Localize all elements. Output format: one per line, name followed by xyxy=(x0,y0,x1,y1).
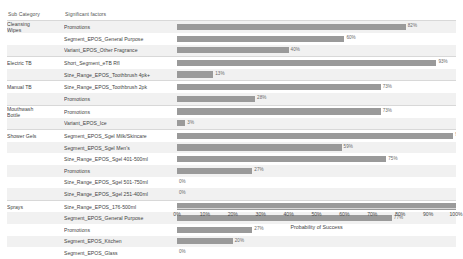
bar-track: 60% xyxy=(177,33,456,45)
cell-significant-factor: Segment_EPOS_Glass xyxy=(64,247,177,259)
table-row: Size_Range_EPOS_Sgel 251-400ml0% xyxy=(7,188,456,200)
cell-bar: 3% xyxy=(177,118,456,130)
bar xyxy=(177,156,386,162)
cell-sub-category: Electric TB xyxy=(7,57,64,69)
bar xyxy=(177,24,406,30)
bar-value-label: 93% xyxy=(438,59,447,64)
cell-bar: 40% xyxy=(177,45,456,57)
bar-value-label: 3% xyxy=(187,120,194,125)
bar xyxy=(177,36,344,42)
bar-track: 99% xyxy=(177,130,456,142)
table-row: Manual TBSize_Range_EPOS_Toothbrush 2pk7… xyxy=(7,81,456,93)
cell-bar: 27% xyxy=(177,165,456,177)
cell-significant-factor: Promotions xyxy=(64,165,177,177)
bar-value-label: 40% xyxy=(291,47,300,52)
bar-value-label: 99% xyxy=(455,132,456,137)
x-axis-line xyxy=(177,208,456,209)
table-row: Promotions28% xyxy=(7,93,456,105)
x-axis-tick-label: 50% xyxy=(311,211,321,217)
cell-significant-factor: Size_Range_EPOS_176-500ml xyxy=(64,200,177,212)
cell-bar: 99% xyxy=(177,130,456,142)
table-row: Segment_EPOS_Glass0% xyxy=(7,247,456,259)
table-row: Size_Range_EPOS_Sgel 501-750ml0% xyxy=(7,177,456,189)
cell-bar: 93% xyxy=(177,57,456,69)
cell-bar: 0% xyxy=(177,177,456,189)
cell-significant-factor: Segment_EPOS_General Purpose xyxy=(64,33,177,45)
bar-track: 82% xyxy=(177,21,456,33)
cell-significant-factor: Segment_EPOS_Sgel Milk/Skincare xyxy=(64,130,177,142)
cell-sub-category: MouthwashBottle xyxy=(7,105,64,118)
table-row: Size_Range_EPOS_Sgel 401-500ml75% xyxy=(7,153,456,165)
bar xyxy=(177,60,436,66)
x-axis-tick-label: 40% xyxy=(283,211,293,217)
bar-value-label: 60% xyxy=(346,35,355,40)
bar-track: 40% xyxy=(177,45,456,57)
bar-track: 73% xyxy=(177,81,456,93)
bar-track: 59% xyxy=(177,142,456,154)
x-axis-tick-label: 20% xyxy=(228,211,238,217)
bar-track: 13% xyxy=(177,69,456,81)
table-header-row: Sub Category Significant factors xyxy=(7,8,456,21)
cell-significant-factor: Size_Range_EPOS_Sgel 251-400ml xyxy=(64,188,177,200)
cell-significant-factor: Promotions xyxy=(64,224,177,236)
cell-significant-factor: Variant_EPOS_Ice xyxy=(64,118,177,130)
bar xyxy=(177,84,381,90)
table-row: Electric TBShort_Segment_eTB Rfl93% xyxy=(7,57,456,69)
cell-significant-factor: Short_Segment_eTB Rfl xyxy=(64,57,177,69)
bar-value-label: 28% xyxy=(257,95,266,100)
x-axis-tick-label: 60% xyxy=(339,211,349,217)
cell-sub-category xyxy=(7,93,64,105)
bar-value-label: 0% xyxy=(179,190,186,195)
x-axis-title: Probability of Success xyxy=(177,224,456,230)
bar-track: 3% xyxy=(177,118,456,130)
bar-value-label: 82% xyxy=(408,23,417,28)
table-row: Segment_EPOS_Sgel Men's59% xyxy=(7,142,456,154)
x-axis-tick-label: 70% xyxy=(367,211,377,217)
cell-sub-category xyxy=(7,212,64,224)
table-row: Promotions27% xyxy=(7,165,456,177)
cell-bar: 73% xyxy=(177,105,456,118)
bar-track: 0% xyxy=(177,188,456,200)
cell-sub-category xyxy=(7,33,64,45)
bar xyxy=(177,108,381,114)
bar-value-label: 0% xyxy=(179,179,186,184)
cell-sub-category xyxy=(7,165,64,177)
bar-value-label: 27% xyxy=(254,167,263,172)
table-row: MouthwashBottlePromotions73% xyxy=(7,105,456,118)
cell-bar: 60% xyxy=(177,33,456,45)
cell-significant-factor: Promotions xyxy=(64,93,177,105)
bar-value-label: 73% xyxy=(383,108,392,113)
cell-bar: 13% xyxy=(177,69,456,81)
cell-significant-factor: Segment_EPOS_Kitchen xyxy=(64,236,177,248)
bar-track: 27% xyxy=(177,165,456,177)
table-row: Size_Range_EPOS_Toothbrush 4pk+13% xyxy=(7,69,456,81)
bar xyxy=(177,133,453,139)
cell-bar: 28% xyxy=(177,93,456,105)
x-axis-tick-label: 100% xyxy=(449,211,462,217)
cell-significant-factor: Promotions xyxy=(64,21,177,34)
cell-sub-category xyxy=(7,224,64,236)
cell-significant-factor: Size_Range_EPOS_Toothbrush 2pk xyxy=(64,81,177,93)
table-row: CleansingWipesPromotions82% xyxy=(7,21,456,34)
cell-sub-category xyxy=(7,45,64,57)
column-header-sub-category: Sub Category xyxy=(7,8,64,21)
bar-value-label: 0% xyxy=(179,249,186,254)
cell-sub-category xyxy=(7,247,64,259)
x-axis-tick-label: 90% xyxy=(423,211,433,217)
cell-significant-factor: Variant_EPOS_Other Fragrance xyxy=(64,45,177,57)
x-axis-tick-label: 0% xyxy=(173,211,180,217)
table-row: Shower GelsSegment_EPOS_Sgel Milk/Skinca… xyxy=(7,130,456,142)
x-axis-tick-label: 10% xyxy=(200,211,210,217)
bar xyxy=(177,168,252,174)
bar xyxy=(177,120,185,126)
cell-sub-category xyxy=(7,153,64,165)
bar-value-label: 59% xyxy=(344,144,353,149)
column-header-significant-factors: Significant factors xyxy=(64,8,177,21)
cell-sub-category xyxy=(7,69,64,81)
bar xyxy=(177,96,255,102)
bar-value-label: 73% xyxy=(383,84,392,89)
cell-sub-category xyxy=(7,236,64,248)
bar xyxy=(177,71,213,77)
cell-sub-category xyxy=(7,177,64,189)
